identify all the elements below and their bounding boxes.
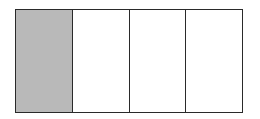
shaded-part [16,10,72,112]
unshaded-part [129,10,186,112]
fraction-bar [15,9,243,113]
unshaded-part [185,10,242,112]
unshaded-part [72,10,129,112]
